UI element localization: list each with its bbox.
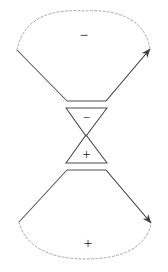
lower-lobe-sign: + (84, 235, 92, 251)
upper-fan-sector: − (17, 11, 150, 101)
upper-right-arrow (106, 49, 150, 101)
lower-triangle-sign: + (83, 147, 91, 162)
diagram-canvas: − − + + (0, 0, 168, 272)
lower-right-arrow (106, 170, 151, 223)
upper-left-radius (17, 50, 67, 101)
lower-left-radius (19, 170, 67, 222)
upper-inverted-triangle: − (66, 108, 107, 136)
lower-upright-triangle: + (66, 135, 107, 163)
upper-lobe-sign: − (80, 27, 88, 43)
upper-triangle-sign: − (83, 110, 90, 125)
lower-fan-sector: + (19, 170, 151, 259)
bowtie-field-diagram: − − + + (0, 0, 168, 272)
